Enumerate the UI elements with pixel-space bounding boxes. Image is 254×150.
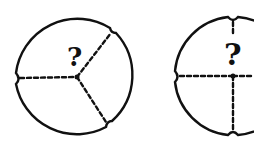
diagram-canvas: [0, 0, 254, 150]
dashed-radius-lower-right: [77, 77, 106, 122]
four-part-circle: [175, 17, 254, 135]
dashed-radius-left: [20, 77, 77, 78]
question-mark-right: ?: [224, 40, 242, 70]
three-part-circle: [16, 19, 132, 134]
center-dot: [75, 75, 80, 80]
center-dot: [231, 74, 236, 79]
question-mark-left: ?: [67, 44, 82, 70]
circle-outline: [16, 19, 132, 134]
